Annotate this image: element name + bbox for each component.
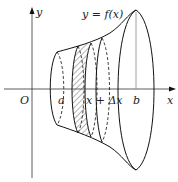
slice-label: x + Δx [86, 94, 123, 107]
y-axis-label: y [35, 6, 43, 19]
y-axis-arrow-icon [30, 7, 35, 14]
disk-a-front [50, 52, 57, 125]
a-label: a [58, 94, 65, 107]
solid-of-revolution-diagram: y y = f(x) O a x + Δx b x [0, 0, 178, 182]
x-axis-arrow-icon [169, 87, 176, 92]
origin-label: O [20, 94, 29, 107]
x-axis-label: x [167, 94, 174, 107]
disk-a-back [57, 52, 64, 125]
b-label: b [133, 94, 140, 107]
disk-mid-back [102, 38, 110, 142]
axes [4, 7, 176, 178]
curve-label: y = f(x) [81, 8, 123, 21]
